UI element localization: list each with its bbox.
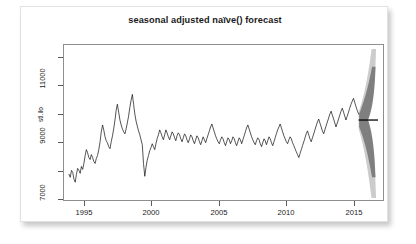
- x-axis-tick: [286, 201, 287, 206]
- x-axis: [63, 201, 384, 207]
- x-axis-tick-label: 2015: [346, 208, 363, 217]
- x-axis-tick: [354, 201, 355, 206]
- figure-card: seasonal adjusted naïve() forecast stl.i…: [20, 6, 388, 222]
- x-axis-tick: [151, 201, 152, 206]
- x-axis-tick: [84, 201, 85, 206]
- screenshot-root: seasonal adjusted naïve() forecast stl.i…: [0, 0, 416, 244]
- x-axis-tick-label: 2005: [211, 208, 228, 217]
- y-axis-tick-label: 11000: [38, 62, 47, 96]
- x-axis-tick-label: 2000: [143, 208, 160, 217]
- page-title: seasonal adjusted naïve() forecast: [21, 15, 389, 25]
- y-axis-tick-label: 9000: [38, 119, 47, 153]
- x-axis-tick-label: 1995: [76, 208, 93, 217]
- chart-canvas: [64, 45, 383, 200]
- y-axis-tick-label: 7000: [38, 176, 47, 210]
- historical-series-line: [69, 94, 359, 182]
- plot-panel: [63, 44, 384, 201]
- x-axis-tick: [219, 201, 220, 206]
- x-axis-tick-label: 2010: [278, 208, 295, 217]
